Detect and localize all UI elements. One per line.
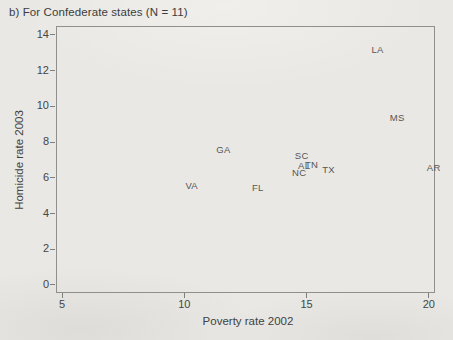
y-tick-mark — [50, 70, 55, 71]
y-axis-title: Homicide rate 2003 — [13, 110, 25, 210]
data-point-label: NC — [292, 167, 306, 178]
y-tick-mark — [50, 177, 55, 178]
y-tick-mark — [50, 249, 55, 250]
data-point-label: GA — [216, 144, 230, 155]
x-tick-label: 5 — [47, 298, 77, 310]
data-point-label: LA — [371, 44, 383, 55]
data-point-label: TX — [322, 163, 335, 174]
scatter-plot-figure: b) For Confederate states (N = 11) Homic… — [0, 0, 453, 340]
x-axis-title: Poverty rate 2002 — [203, 315, 294, 327]
y-tick-mark — [50, 106, 55, 107]
y-tick-label: 10 — [17, 99, 49, 111]
y-tick-label: 4 — [17, 207, 49, 219]
chart-title: b) For Confederate states (N = 11) — [9, 6, 188, 18]
y-tick-label: 14 — [17, 28, 49, 40]
data-point-label: FL — [252, 181, 264, 192]
x-tick-label: 20 — [414, 298, 444, 310]
y-tick-label: 8 — [17, 135, 49, 147]
y-tick-label: 6 — [17, 171, 49, 183]
data-point-label: MS — [390, 112, 405, 123]
y-tick-mark — [50, 142, 55, 143]
y-tick-mark — [50, 34, 55, 35]
data-point-label: AR — [427, 162, 441, 173]
y-tick-label: 0 — [17, 278, 49, 290]
plot-area — [56, 26, 435, 293]
y-tick-label: 2 — [17, 242, 49, 254]
x-tick-label: 10 — [169, 298, 199, 310]
y-tick-label: 12 — [17, 64, 49, 76]
y-tick-mark — [50, 213, 55, 214]
data-point-label: VA — [185, 179, 198, 190]
x-tick-label: 15 — [292, 298, 322, 310]
y-tick-mark — [50, 284, 55, 285]
